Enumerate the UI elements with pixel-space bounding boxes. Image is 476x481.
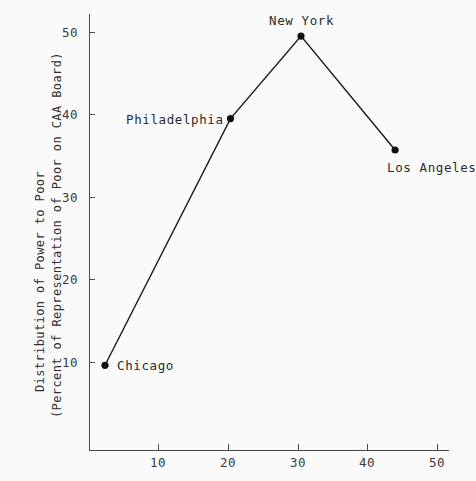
- data-point-new-york: [297, 33, 304, 40]
- data-series-layer: [0, 0, 476, 481]
- x-tick-label-50: 50: [422, 455, 452, 470]
- y-tick-20: [89, 279, 95, 280]
- x-axis-line: [89, 450, 449, 451]
- point-label-chicago: Chicago: [117, 358, 174, 373]
- x-tick-label-40: 40: [352, 455, 382, 470]
- x-tick-label-30: 30: [283, 455, 313, 470]
- x-tick-10: [158, 444, 159, 450]
- x-tick-40: [367, 444, 368, 450]
- x-tick-label-20: 20: [213, 455, 243, 470]
- y-tick-label-20: 20: [50, 272, 78, 287]
- data-point-philadelphia: [227, 115, 234, 122]
- y-tick-10: [89, 362, 95, 363]
- y-axis-line: [89, 14, 90, 450]
- series-markers: [101, 33, 398, 369]
- x-tick-30: [298, 444, 299, 450]
- chart-page: Distribution of Power to Poor (Percent o…: [0, 0, 476, 481]
- y-tick-label-50: 50: [50, 25, 78, 40]
- y-axis-label-line1: Distribution of Power to Poor: [33, 171, 47, 392]
- point-label-los-angeles: Los Angeles: [387, 160, 476, 175]
- point-label-new-york: New York: [269, 13, 334, 28]
- x-tick-20: [228, 444, 229, 450]
- chart-title: [0, 0, 476, 2]
- point-label-philadelphia: Philadelphia: [126, 112, 224, 127]
- y-tick-label-40: 40: [50, 107, 78, 122]
- data-point-chicago: [101, 362, 108, 369]
- x-tick-50: [437, 444, 438, 450]
- series-line: [105, 36, 395, 365]
- x-tick-label-10: 10: [143, 455, 173, 470]
- y-tick-50: [89, 32, 95, 33]
- y-tick-30: [89, 197, 95, 198]
- y-tick-label-30: 30: [50, 190, 78, 205]
- data-point-los-angeles: [392, 146, 399, 153]
- y-tick-40: [89, 114, 95, 115]
- y-tick-label-10: 10: [50, 355, 78, 370]
